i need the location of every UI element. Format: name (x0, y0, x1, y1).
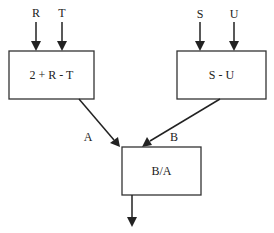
arrow-r (31, 22, 41, 51)
arrow-s (195, 22, 205, 51)
edge-label-b: B (170, 130, 178, 144)
box-left-label: 2 + R - T (30, 68, 75, 82)
box-bottom-label: B/A (151, 164, 171, 178)
input-label-t: T (58, 6, 66, 20)
input-label-r: R (32, 6, 40, 20)
box-right: S - U (177, 51, 266, 99)
flow-diagram: R T S U 2 + R - T S - U A B (0, 0, 274, 233)
box-bottom: B/A (122, 147, 201, 195)
edge-b (142, 99, 220, 147)
edge-label-a: A (84, 130, 93, 144)
box-right-label: S - U (209, 68, 235, 82)
arrow-output (127, 195, 137, 227)
arrow-u (229, 22, 239, 51)
arrow-t (57, 22, 67, 51)
input-label-s: S (197, 7, 204, 21)
box-left: 2 + R - T (9, 51, 94, 99)
input-label-u: U (230, 7, 239, 21)
